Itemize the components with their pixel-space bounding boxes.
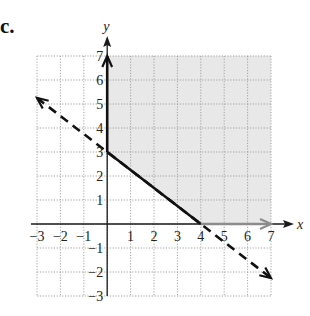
x-tick-label: 7	[268, 229, 275, 244]
x-tick-label: −2	[53, 229, 68, 244]
y-tick-label: −2	[88, 265, 103, 280]
x-tick-label: 3	[174, 229, 181, 244]
y-tick-label: 1	[96, 193, 103, 208]
y-tick-label: −3	[88, 289, 103, 304]
y-tick-label: 6	[96, 73, 103, 88]
y-tick-label: 4	[96, 121, 103, 136]
x-tick-label: −3	[30, 229, 45, 244]
x-tick-label: 2	[151, 229, 158, 244]
y-tick-label: 7	[96, 49, 103, 64]
y-tick-label: 5	[96, 97, 103, 112]
y-axis-label: y	[101, 19, 110, 34]
x-tick-label: 5	[221, 229, 228, 244]
x-tick-label: 6	[244, 229, 251, 244]
y-tick-label: 2	[96, 169, 103, 184]
coordinate-plane: xy −3−2−112345677654321−1−2−3	[0, 0, 310, 316]
x-axis-label: x	[296, 217, 304, 232]
x-tick-label: 4	[197, 229, 204, 244]
y-tick-label: 3	[96, 145, 103, 160]
feasible-region	[107, 56, 271, 224]
shaded-region	[107, 56, 271, 224]
y-tick-label: −1	[88, 241, 103, 256]
x-tick-label: 1	[127, 229, 134, 244]
